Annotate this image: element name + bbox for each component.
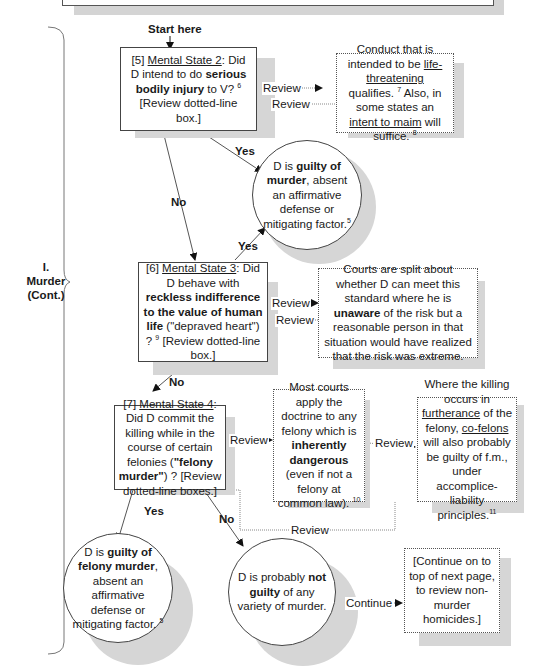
no-label-ms4: No xyxy=(218,513,235,526)
start-label: Start here xyxy=(148,23,202,35)
guilty-of-murder-outcome: D is guilty of murder, absent an affirma… xyxy=(252,140,362,250)
yes-label-ms3: Yes xyxy=(237,240,259,253)
no-label-ms3: No xyxy=(168,376,185,389)
felony-murder-note-2: Where the killing occurs in furtherance … xyxy=(417,397,517,502)
mental-state-2-box: [5] Mental State 2: Did D intend to do s… xyxy=(120,47,257,131)
review-label-ms3-in: Review xyxy=(275,314,315,327)
section-label: I. Murder (Cont.) xyxy=(18,260,74,302)
section-number: I. xyxy=(18,260,74,274)
continue-box[interactable]: [Continue on to top of next page, to rev… xyxy=(404,548,500,633)
mental-state-4-box: [7] Mental State 4: Did D commit the kil… xyxy=(114,405,226,490)
review-label-note1-note2: Review xyxy=(374,437,414,450)
section-title: Murder xyxy=(18,274,74,288)
section-subtitle: (Cont.) xyxy=(18,288,74,302)
not-guilty-outcome: D is probably not guilty of any variety … xyxy=(228,538,336,646)
guilty-of-felony-murder-outcome: D is guilty of felony murder, absent an … xyxy=(63,533,173,643)
review-label-ms2-in: Review xyxy=(271,98,311,111)
review-label-ms4-note1: Review xyxy=(229,434,269,447)
mental-state-2-note: Conduct that is intended to be life-thre… xyxy=(336,53,454,133)
felony-murder-note-1: Most courts apply the doctrine to any fe… xyxy=(273,389,365,502)
yes-label-ms4: Yes xyxy=(143,505,165,518)
mental-state-3-note: Courts are split about whether D can mee… xyxy=(318,268,478,358)
mental-state-3-box: [6] Mental State 3: Did D behave with re… xyxy=(138,262,268,362)
review-label-ms3-out: Review xyxy=(271,297,311,310)
no-label-ms2: No xyxy=(170,196,187,209)
continue-label: Continue xyxy=(345,597,393,610)
yes-label-ms2: Yes xyxy=(234,145,256,158)
review-label-ms2-out: Review xyxy=(262,82,302,95)
review-label-loop-back: Review xyxy=(290,524,330,537)
